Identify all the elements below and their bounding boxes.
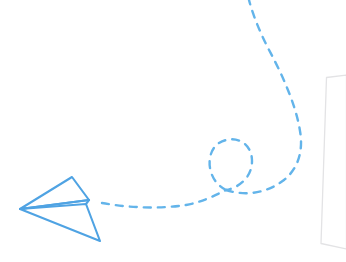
document-card-outline [321,75,346,249]
trail-segment-approach [102,190,226,207]
illustration-svg [0,0,346,262]
paper-plane [20,177,100,241]
trail-segment-ascent [226,0,301,193]
illustration-canvas: Paper plane with dashed flight trail [0,0,346,262]
document-card [321,75,346,249]
trail-segment-loop [210,139,252,190]
flight-trail [102,0,301,207]
plane-lower-wing [20,204,100,241]
